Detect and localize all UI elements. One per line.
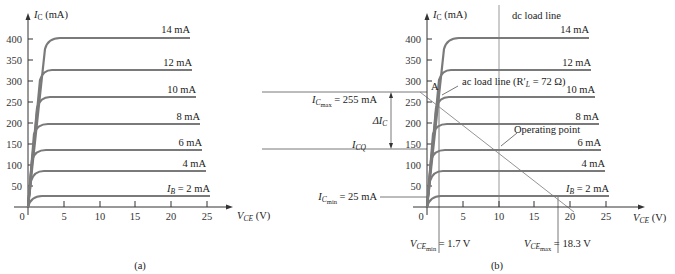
y-axis-label: IC (mA)	[432, 9, 467, 22]
caption-b: (b)	[491, 260, 504, 272]
curve-label-12ma: 12 mA	[163, 57, 192, 68]
curve-label-12ma: 12 mA	[562, 57, 591, 68]
svg-text:25: 25	[601, 211, 612, 222]
point-a-label: A	[431, 81, 439, 92]
svg-text:250: 250	[6, 97, 22, 108]
icmax-label: ICmax = 255 mA	[311, 94, 377, 108]
curve-label-8ma: 8 mA	[575, 111, 599, 122]
x-axis-label: VCE (V)	[633, 212, 667, 225]
curve-label-6ma: 6 mA	[178, 137, 202, 148]
svg-text:0: 0	[19, 211, 24, 222]
svg-text:250: 250	[405, 97, 421, 108]
svg-text:100: 100	[405, 160, 421, 171]
svg-text:15: 15	[529, 211, 540, 222]
icq-label: ICQ	[351, 139, 367, 152]
svg-text:20: 20	[166, 211, 177, 222]
y-axis-arrow-icon	[26, 13, 31, 20]
svg-text:100: 100	[6, 160, 22, 171]
y-ticks: 400 350 300 250 200 150 100 50	[6, 34, 33, 192]
x-ticks: 0 5 10 15 20 25	[19, 201, 212, 222]
curve-label-10ma: 10 mA	[566, 84, 595, 95]
svg-text:150: 150	[6, 139, 22, 150]
svg-text:5: 5	[61, 211, 66, 222]
panel-a-chart: IC (mA) 400 350 300 250 200 150 100 50 0…	[6, 9, 270, 272]
y-axis-arrow-icon	[425, 13, 430, 20]
svg-text:50: 50	[12, 181, 23, 192]
vcemin-label: VCEmin = 1.7 V	[410, 238, 471, 252]
curve-label-10ma: 10 mA	[167, 84, 196, 95]
icmin-label: ICmin = 25 mA	[317, 191, 377, 205]
svg-text:200: 200	[6, 118, 22, 129]
operating-point-label: Operating point	[514, 124, 580, 135]
curve-label-2ma: IB = 2 mA	[166, 183, 210, 196]
svg-text:20: 20	[565, 211, 576, 222]
svg-text:15: 15	[130, 211, 141, 222]
curve-label-4ma: 4 mA	[581, 158, 605, 169]
svg-text:5: 5	[460, 211, 465, 222]
svg-text:0: 0	[418, 211, 423, 222]
curve-label-8ma: 8 mA	[176, 111, 200, 122]
arrow-up-icon	[389, 92, 393, 98]
svg-text:400: 400	[6, 34, 22, 45]
ac-load-line-label: ac load line (R′L = 72 Ω)	[462, 76, 566, 89]
svg-text:150: 150	[405, 139, 421, 150]
svg-text:350: 350	[405, 55, 421, 66]
curve-label-14ma: 14 mA	[161, 24, 190, 35]
x-axis-arrow-icon	[226, 205, 233, 210]
x-axis-label: VCE (V)	[237, 210, 271, 223]
svg-text:10: 10	[494, 211, 505, 222]
caption-a: (a)	[134, 260, 146, 272]
y-ticks: 400 350 300 250 200 150 100 50	[405, 34, 432, 192]
dc-load-line-label: dc load line	[512, 10, 561, 21]
delta-ic-label: ΔIC	[372, 115, 389, 128]
x-axis-arrow-icon	[638, 205, 645, 210]
svg-text:300: 300	[6, 76, 22, 87]
svg-text:200: 200	[405, 118, 421, 129]
svg-text:350: 350	[6, 55, 22, 66]
ac-load-line	[420, 92, 574, 212]
panel-b-chart: dc load line IC (mA) 400 350 300 250 200…	[262, 5, 667, 272]
svg-text:400: 400	[405, 34, 421, 45]
curve-label-4ma: 4 mA	[182, 158, 206, 169]
svg-text:50: 50	[411, 181, 422, 192]
svg-text:25: 25	[202, 211, 213, 222]
svg-text:10: 10	[95, 211, 106, 222]
curve-label-14ma: 14 mA	[560, 24, 589, 35]
curve-label-2ma: IB = 2 mA	[565, 183, 609, 196]
x-ticks: 0 5 10 15 20 25	[418, 201, 611, 222]
y-axis-label: IC (mA)	[33, 9, 68, 22]
curve-label-6ma: 6 mA	[577, 137, 601, 148]
arrow-down-icon	[389, 143, 393, 149]
svg-text:300: 300	[405, 76, 421, 87]
ac-load-line-leader	[442, 86, 458, 95]
figure: IC (mA) 400 350 300 250 200 150 100 50 0…	[0, 0, 675, 274]
